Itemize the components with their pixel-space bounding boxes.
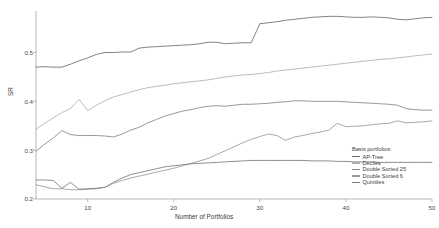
line-chart-canvas xyxy=(0,0,439,228)
legend-color-swatch xyxy=(352,175,360,176)
y-tick-label-1: 0.3 xyxy=(18,147,33,154)
x-tick-label-1: 20 xyxy=(168,204,180,211)
legend-title: Basis portfolios: xyxy=(352,146,436,152)
legend-item[interactable]: Quintiles xyxy=(352,179,436,185)
x-tick-label-4: 50 xyxy=(426,204,438,211)
x-tick-label-0: 10 xyxy=(82,204,94,211)
legend-color-swatch xyxy=(352,156,360,157)
series-line xyxy=(36,16,432,67)
y-tick-label-3: 0.5 xyxy=(18,49,33,56)
chart-legend: Basis portfolios: AP-TreeDecilesDouble S… xyxy=(352,146,436,185)
x-axis-ticks xyxy=(88,199,432,202)
x-axis-title: Number of Portfolios xyxy=(175,213,233,220)
legend-color-swatch xyxy=(352,182,360,183)
series-line xyxy=(36,54,432,129)
legend-color-swatch xyxy=(352,162,360,163)
series-line xyxy=(36,101,432,151)
y-axis-ticks xyxy=(33,53,36,199)
y-tick-label-2: 0.4 xyxy=(18,98,33,105)
x-tick-label-3: 40 xyxy=(340,204,352,211)
legend-color-swatch xyxy=(352,169,360,170)
x-tick-label-2: 30 xyxy=(254,204,266,211)
y-tick-label-0: 0.2 xyxy=(18,195,33,202)
chart-figure: SR Number of Portfolios 0.2 0.3 0.4 0.5 … xyxy=(0,0,439,228)
legend-item-label: Quintiles xyxy=(363,179,385,185)
legend-items: AP-TreeDecilesDouble Sorted 25Double Sor… xyxy=(352,154,436,186)
y-axis-title: SR xyxy=(7,87,14,96)
